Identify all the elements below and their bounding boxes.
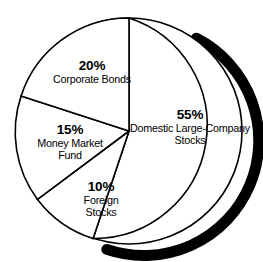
pie-chart-canvas — [0, 0, 263, 262]
pie-chart: 55% Domestic Large-Company Stocks 20% Co… — [0, 0, 263, 262]
